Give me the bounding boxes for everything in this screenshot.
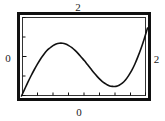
plot-inner-rule [23,18,146,96]
data-curve [22,28,148,96]
plot-canvas [0,0,165,121]
axis-label-right: 2 [150,54,163,65]
axis-label-bottom: 0 [72,107,86,118]
axis-label-top: 2 [71,2,85,13]
y-axis-ticks [23,18,27,96]
plot-inner-frame [22,17,147,97]
plot-outer-frame [19,14,150,100]
function-plot-figure: 2 0 2 0 [0,0,165,121]
axis-label-left: 0 [2,53,14,64]
